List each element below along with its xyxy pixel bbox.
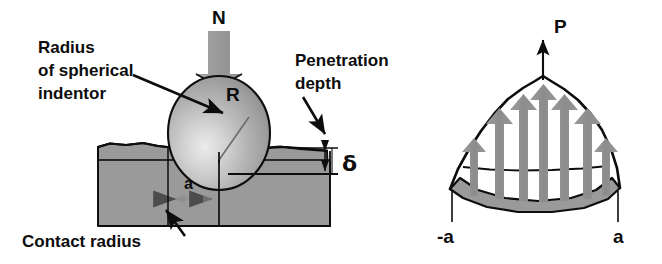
radius-callout-line3: indentor (38, 84, 106, 103)
contact-radius-symbol-a: a (184, 175, 193, 192)
contact-radius-callout-label: Contact radius (22, 232, 141, 251)
diagram-canvas: Radius of spherical indentor Penetration… (0, 0, 662, 264)
figure-root: Radius of spherical indentor Penetration… (0, 0, 662, 264)
right-edge-symbol-a: a (613, 226, 624, 247)
radius-callout-line2: of spherical (38, 61, 133, 80)
left-edge-symbol-minus-a: -a (437, 226, 454, 247)
penetration-callout-line2: depth (295, 74, 341, 93)
resultant-load-symbol-P: P (554, 16, 567, 37)
normal-load-symbol-N: N (212, 7, 226, 28)
penetration-depth-symbol-delta: δ (342, 151, 357, 176)
sphere-radius-symbol-R: R (226, 84, 240, 105)
radius-callout-line1: Radius (38, 38, 95, 57)
penetration-callout-line1: Penetration (295, 51, 389, 70)
